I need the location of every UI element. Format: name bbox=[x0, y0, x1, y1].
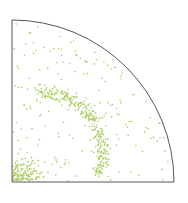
data-point bbox=[76, 92, 78, 94]
data-point bbox=[20, 165, 22, 167]
data-point bbox=[106, 151, 108, 153]
data-point bbox=[96, 155, 98, 157]
data-point bbox=[33, 53, 35, 55]
data-point bbox=[94, 126, 96, 128]
data-point bbox=[107, 65, 109, 67]
data-point bbox=[101, 161, 103, 163]
data-point bbox=[97, 149, 99, 151]
data-point bbox=[74, 106, 76, 108]
data-point bbox=[66, 92, 68, 94]
data-point bbox=[118, 171, 120, 173]
data-point bbox=[19, 178, 21, 180]
data-point bbox=[84, 60, 86, 62]
data-point bbox=[116, 107, 118, 109]
data-point bbox=[36, 100, 38, 102]
data-point bbox=[15, 122, 17, 124]
data-point bbox=[86, 108, 88, 110]
data-point bbox=[26, 173, 28, 175]
data-point bbox=[35, 50, 37, 52]
data-point bbox=[118, 114, 120, 116]
data-point bbox=[161, 169, 163, 171]
data-point bbox=[20, 128, 22, 130]
data-point bbox=[49, 93, 51, 95]
data-point bbox=[20, 174, 22, 176]
data-point bbox=[121, 72, 123, 74]
data-point bbox=[23, 174, 25, 176]
data-point bbox=[88, 114, 90, 116]
data-point bbox=[14, 169, 16, 171]
data-point bbox=[33, 168, 35, 170]
data-point bbox=[56, 62, 58, 64]
data-point bbox=[74, 71, 76, 73]
data-point bbox=[112, 104, 114, 106]
data-point bbox=[36, 178, 38, 180]
data-point bbox=[67, 98, 69, 100]
data-point bbox=[37, 144, 39, 146]
data-point bbox=[101, 155, 103, 157]
data-point bbox=[98, 165, 100, 167]
data-point bbox=[86, 115, 88, 117]
data-point bbox=[87, 73, 89, 75]
data-point bbox=[57, 73, 59, 75]
data-point bbox=[97, 132, 99, 134]
data-point bbox=[39, 91, 41, 93]
data-point bbox=[17, 170, 19, 172]
data-point bbox=[112, 59, 114, 61]
data-point bbox=[100, 143, 102, 145]
data-point bbox=[83, 107, 85, 109]
data-point bbox=[14, 85, 16, 87]
data-point bbox=[62, 92, 64, 94]
data-point bbox=[105, 162, 107, 164]
data-point bbox=[145, 100, 147, 102]
data-point bbox=[102, 168, 104, 170]
data-point bbox=[39, 115, 41, 117]
data-point bbox=[15, 23, 17, 25]
data-point bbox=[98, 176, 100, 178]
data-point bbox=[59, 99, 61, 101]
data-point bbox=[93, 138, 95, 140]
data-point bbox=[108, 153, 110, 155]
data-point bbox=[107, 164, 109, 166]
data-point bbox=[68, 92, 70, 94]
data-point bbox=[43, 91, 45, 93]
data-point bbox=[56, 93, 58, 95]
data-point bbox=[145, 127, 147, 129]
data-point bbox=[25, 43, 27, 45]
data-point bbox=[45, 95, 47, 97]
data-point bbox=[57, 90, 59, 92]
data-point bbox=[101, 172, 103, 174]
data-point bbox=[29, 77, 31, 79]
data-point bbox=[106, 144, 108, 146]
data-point bbox=[39, 102, 41, 104]
data-point bbox=[111, 68, 113, 70]
data-point bbox=[127, 126, 129, 128]
data-point bbox=[120, 75, 122, 77]
data-point bbox=[133, 94, 135, 96]
data-point bbox=[120, 102, 122, 104]
data-point bbox=[75, 51, 77, 53]
data-point bbox=[78, 107, 80, 109]
data-point bbox=[56, 89, 58, 91]
data-point bbox=[84, 110, 86, 112]
data-point bbox=[70, 42, 72, 44]
data-point bbox=[65, 100, 67, 102]
data-point bbox=[63, 61, 65, 63]
data-point bbox=[105, 125, 107, 127]
data-point bbox=[116, 134, 118, 136]
data-point bbox=[142, 151, 144, 153]
data-point bbox=[100, 117, 102, 119]
data-point bbox=[65, 159, 67, 161]
data-point bbox=[101, 151, 103, 153]
data-point bbox=[24, 105, 26, 107]
data-point bbox=[108, 165, 110, 167]
data-point bbox=[51, 164, 53, 166]
data-point bbox=[78, 109, 80, 111]
data-point bbox=[44, 98, 46, 100]
data-point bbox=[107, 102, 109, 104]
data-point bbox=[107, 161, 109, 163]
data-point bbox=[98, 118, 100, 120]
data-point bbox=[149, 117, 151, 119]
data-point bbox=[101, 129, 103, 131]
data-point bbox=[95, 169, 97, 171]
data-point bbox=[105, 151, 107, 153]
